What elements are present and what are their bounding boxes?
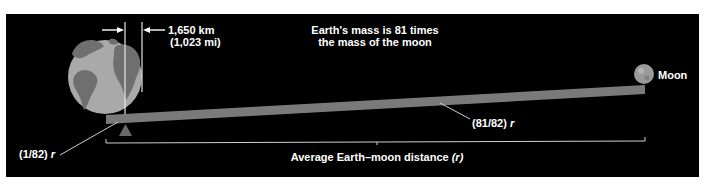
earth-ratio-leader (60, 122, 118, 155)
earth-icon (68, 39, 142, 114)
diameter-label: 1,650 km (1,023 mi) (168, 24, 221, 48)
caption-line-1: Earth's mass is 81 times (275, 24, 475, 36)
moon-icon (634, 64, 654, 84)
moon-label: Moon (658, 69, 687, 81)
distance-text: Average Earth–moon distance (291, 151, 449, 163)
caption-line-2: the mass of the moon (275, 36, 475, 48)
distance-bracket (106, 137, 645, 145)
distance-variable: (r) (452, 151, 464, 163)
moon-side-ratio: (81/82) (472, 117, 507, 129)
distance-label: Average Earth–moon distance (r) (277, 151, 477, 163)
fulcrum-icon (119, 124, 132, 136)
moon-side-ratio-label: (81/82) r (472, 117, 514, 129)
ratio-variable: r (510, 117, 514, 129)
lever-beam (106, 85, 645, 124)
mass-ratio-caption: Earth's mass is 81 times the mass of the… (275, 24, 475, 48)
diameter-mi: (1,023 mi) (168, 36, 221, 48)
earth-side-ratio-label: (1/82) r (19, 148, 55, 160)
diameter-km: 1,650 km (168, 24, 221, 36)
moon-ratio-leader (440, 103, 470, 119)
ratio-variable: r (51, 148, 55, 160)
earth-side-ratio: (1/82) (19, 148, 48, 160)
